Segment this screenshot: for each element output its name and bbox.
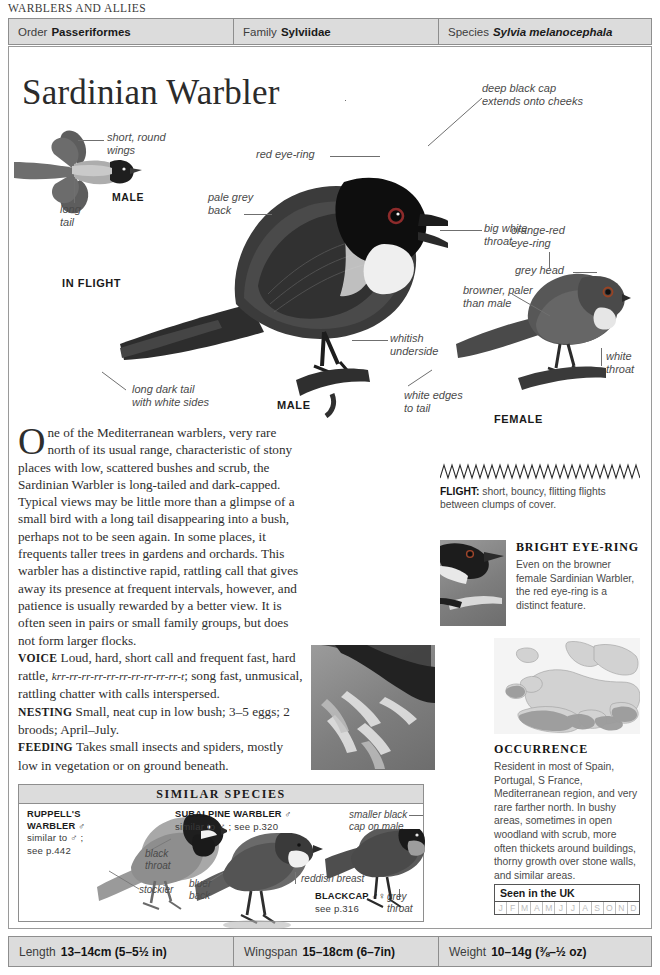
feeding-label: FEEDING: [18, 741, 73, 754]
taxonomy-bar: Order Passeriformes Family Sylviidae Spe…: [8, 18, 652, 45]
flight-pattern-line: [440, 462, 640, 482]
weight-value: 10–14g (⅜–½ oz): [491, 945, 586, 959]
uk-month-nov[interactable]: N: [616, 902, 628, 914]
uk-month-jun[interactable]: J: [555, 902, 567, 914]
subalpine-note: similar to ♂ ; see p.320: [175, 821, 278, 832]
measurement-weight: Weight 10–14g (⅜–½ oz): [439, 937, 651, 966]
uk-month-oct[interactable]: O: [604, 902, 616, 914]
page-title: Sardinian Warbler: [22, 73, 280, 113]
weight-label: Weight: [449, 945, 486, 959]
voice-label: VOICE: [18, 652, 57, 665]
uk-month-aug[interactable]: A: [580, 902, 592, 914]
flight-caption: FLIGHT: short, bouncy, flitting flights …: [440, 485, 640, 511]
taxonomy-order: Order Passeriformes: [9, 19, 234, 44]
field-guide-page: WARBLERS AND ALLIES Order Passeriformes …: [0, 0, 660, 975]
measurement-wingspan: Wingspan 15–18cm (6–7in): [234, 937, 439, 966]
eye-ring-text: Even on the browner female Sardinian War…: [516, 558, 640, 612]
uk-month-mar[interactable]: M: [519, 902, 531, 914]
seen-in-uk-widget: Seen in the UK J F M A M J J A S O N D: [494, 884, 640, 915]
leader-smaller-black-cap: [409, 815, 423, 816]
uk-month-feb[interactable]: F: [507, 902, 519, 914]
voice-paragraph: VOICE Loud, hard, short call and frequen…: [18, 649, 306, 703]
occurrence-section: OCCURRENCE Resident in most of Spain, Po…: [494, 742, 640, 882]
eye-ring-heading: BRIGHT EYE-RING: [516, 540, 640, 555]
length-label: Length: [19, 945, 56, 959]
note-stockier: stockier: [139, 884, 173, 896]
taxonomy-species: Species Sylvia melanocephala: [439, 19, 651, 44]
similar-species-blackcap-name: BLACKCAP ♂♀ ; see p.316: [315, 891, 392, 915]
habitat-photo: [311, 645, 435, 770]
similar-species-heading: SIMILAR SPECIES: [19, 785, 423, 804]
seen-in-uk-title: Seen in the UK: [494, 884, 640, 901]
order-label: Order: [18, 26, 47, 38]
description-text: One of the Mediterranean warblers, very …: [18, 424, 306, 774]
ruppells-note: similar to ♂ ; see p.442: [27, 832, 83, 856]
ruppells-name-line1: RUPPELL'S: [27, 809, 81, 819]
uk-month-dec[interactable]: D: [628, 902, 639, 914]
running-head: WARBLERS AND ALLIES: [8, 2, 146, 14]
length-value: 13–14cm (5–5½ in): [61, 945, 167, 959]
ruppells-name-line2: WARBLER ♂: [27, 821, 85, 831]
family-value: Sylviidae: [281, 26, 331, 38]
intro-text: ne of the Mediterranean warblers, very r…: [18, 425, 298, 648]
flight-label: FLIGHT:: [440, 486, 479, 497]
occurrence-heading: OCCURRENCE: [494, 742, 640, 757]
eye-ring-caption: BRIGHT EYE-RING Even on the browner fema…: [516, 540, 640, 612]
similar-species-subalpine-name: SUBALPINE WARBLER ♂ similar to ♂ ; see p…: [175, 809, 292, 833]
flight-section: FLIGHT: short, bouncy, flitting flights …: [440, 462, 640, 511]
subalpine-name: SUBALPINE WARBLER ♂: [175, 809, 292, 819]
species-label: Species: [448, 26, 489, 38]
measurements-bar: Length 13–14cm (5–5½ in) Wingspan 15–18c…: [8, 936, 652, 967]
eye-ring-photo: [440, 540, 506, 626]
uk-month-jan[interactable]: J: [495, 902, 507, 914]
note-bluer-back: bluer back: [189, 878, 211, 901]
similar-species-ruppells-name: RUPPELL'S WARBLER ♂ similar to ♂ ; see p…: [27, 809, 85, 857]
nesting-paragraph: NESTING Small, neat cup in low bush; 3–5…: [18, 703, 306, 739]
uk-month-may[interactable]: M: [543, 902, 555, 914]
order-value: Passeriformes: [51, 26, 130, 38]
uk-month-apr[interactable]: A: [531, 902, 543, 914]
leader-stockier: [107, 869, 143, 891]
blackcap-name: BLACKCAP ♂♀ ;: [315, 891, 392, 901]
intro-paragraph: One of the Mediterranean warblers, very …: [18, 424, 306, 649]
blackcap-note: see p.316: [315, 903, 359, 914]
uk-month-row: J F M A M J J A S O N D: [494, 901, 640, 915]
feeding-paragraph: FEEDING Takes small insects and spiders,…: [18, 738, 306, 774]
distribution-map: [494, 638, 640, 734]
species-value: Sylvia melanocephala: [493, 26, 613, 38]
measurement-length: Length 13–14cm (5–5½ in): [9, 937, 234, 966]
similar-species-box: SIMILAR SPECIES RUPPELL'S WARBLER ♂ simi…: [18, 784, 424, 922]
leader-reddish-breast: [295, 872, 296, 884]
nesting-label: NESTING: [18, 706, 72, 719]
uk-month-jul[interactable]: J: [567, 902, 579, 914]
uk-month-sep[interactable]: S: [592, 902, 604, 914]
occurrence-text: Resident in most of Spain, Portugal, S F…: [494, 760, 640, 882]
family-label: Family: [243, 26, 277, 38]
note-black-throat: black throat: [145, 848, 171, 871]
taxonomy-family: Family Sylviidae: [234, 19, 439, 44]
wingspan-value: 15–18cm (6–7in): [302, 945, 395, 959]
voice-transcription: krr-rr-rr-rr-rr-rr-rr-rr-rr-rr-t: [52, 670, 185, 682]
drop-cap: O: [18, 424, 47, 456]
wingspan-label: Wingspan: [244, 945, 297, 959]
